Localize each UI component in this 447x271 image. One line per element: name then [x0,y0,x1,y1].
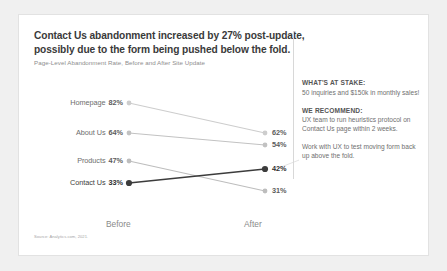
callout-divider [293,31,294,179]
callout-stake-body: 50 inquiries and $150k in monthly sales! [302,88,422,97]
series-label-contact-us: Contact Us33% [19,178,123,187]
point-marker-contact-us-after [262,166,268,172]
slope-lines [19,73,299,233]
callout-spacer-1 [302,97,422,107]
series-label-products: Products47% [19,156,123,165]
series-name-homepage: Homepage [70,98,105,107]
source-note: Source: Analytics.com, 2021. [34,234,88,239]
point-marker-homepage-after [263,131,268,136]
series-after-value-contact-us: 42% [272,164,287,173]
callout-stake-heading: WHAT'S AT STAKE: [302,79,422,86]
series-label-about-us: About Us64% [19,128,123,137]
point-marker-contact-us-before [126,180,132,186]
series-before-value-products: 47% [109,156,123,165]
series-before-value-about-us: 64% [109,128,123,137]
callout-panel: WHAT'S AT STAKE: 50 inquiries and $150k … [302,79,422,160]
page-title: Contact Us abandonment increased by 27% … [34,29,332,56]
series-label-homepage: Homepage82% [19,98,123,107]
chart-subtitle: Page-Level Abandonment Rate, Before and … [34,59,324,66]
slope-line-contact-us [129,169,265,183]
point-marker-about-us-before [127,131,132,136]
series-after-value-about-us: 54% [272,140,287,149]
insight-card: Contact Us abandonment increased by 27% … [18,14,429,256]
series-before-value-homepage: 82% [109,98,123,107]
slope-line-about-us [129,133,265,145]
slope-chart: Homepage82% About Us64% Products47% Cont… [19,73,299,233]
series-name-contact-us: Contact Us [70,178,106,187]
series-name-about-us: About Us [76,128,106,137]
callout-recommend-heading: WE RECOMMEND: [302,107,422,114]
slope-line-homepage [129,103,265,133]
series-after-value-products: 31% [272,186,287,195]
callout-recommend-body: UX team to run heuristics protocol on Co… [302,115,422,133]
callout-followup-body: Work with UX to test moving form back up… [302,142,422,160]
point-marker-products-before [127,159,132,164]
point-marker-about-us-after [263,143,268,148]
series-after-value-homepage: 62% [272,128,287,137]
point-marker-homepage-before [127,101,132,106]
point-marker-products-after [263,189,268,194]
callout-spacer-2 [302,133,422,142]
axis-label-after: After [244,219,262,229]
axis-label-before: Before [106,219,131,229]
series-name-products: Products [77,156,105,165]
series-before-value-contact-us: 33% [109,178,123,187]
